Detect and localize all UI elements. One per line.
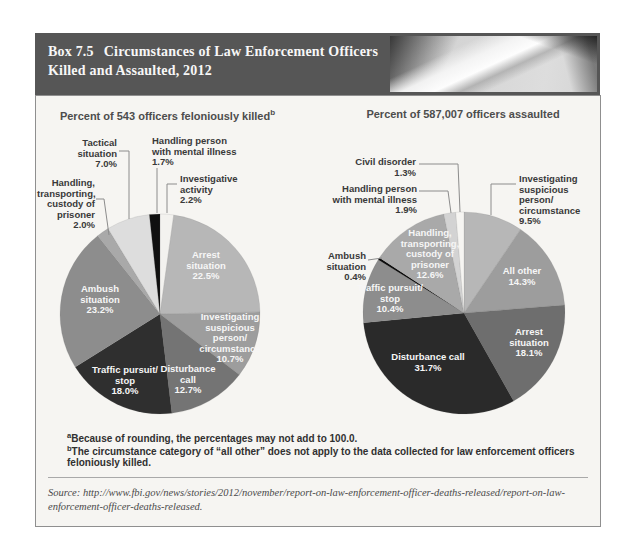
slice-label-traffic-killed: Traffic pursuit/ stop 18.0% [80, 365, 170, 397]
killed-chart-title-superscript: b [270, 108, 275, 117]
slice-label-arrest-killed: Arrest situation 22.5% [161, 250, 251, 282]
page: Box 7.5Circumstances of Law Enforcement … [0, 0, 627, 542]
slice-label-investigating-suspicious-killed: Investigating suspicious person/ circums… [185, 312, 275, 365]
source-divider-line [48, 477, 588, 478]
callout-tactical-situation: Tactical situation 7.0% [47, 138, 117, 170]
header-photo-image [390, 36, 597, 92]
slice-label-disturbance-assaulted: Disturbance call 31.7% [383, 352, 473, 373]
footnote-b: bThe circumstance category of “all other… [67, 444, 587, 468]
box-header-title: Box 7.5Circumstances of Law Enforcement … [48, 42, 418, 80]
callout-handling-prisoner-killed: Handling, transporting, custody of priso… [37, 178, 95, 231]
callout-mental-illness-killed: Handling person with mental illness 1.7% [152, 136, 262, 168]
slice-label-all-other-assaulted: All other 14.3% [477, 266, 567, 287]
assaulted-chart-title: Percent of 587,007 officers assaulted [348, 108, 578, 120]
slice-label-handling-prisoner-assaulted: Handling, transporting, custody of priso… [385, 228, 475, 281]
callout-civil-disorder: Civil disorder 1.3% [336, 157, 416, 178]
box-header: Box 7.5Circumstances of Law Enforcement … [35, 33, 600, 95]
box-number-label: Box 7.5 [48, 44, 94, 59]
footnote-a: aBecause of rounding, the percentages ma… [67, 431, 587, 444]
callout-investigating-suspicious-assaulted: Investigating suspicious person/ circums… [519, 174, 609, 227]
footnote-b-text: The circumstance category of “all other”… [67, 446, 574, 468]
slice-label-ambush-killed: Ambush situation 23.2% [55, 284, 145, 316]
callout-mental-illness-assaulted: Handling person with mental illness 1.9% [307, 184, 417, 216]
footnote-a-text: Because of rounding, the percentages may… [71, 433, 357, 444]
slice-label-traffic-assaulted: Traffic pursuit/ stop 10.4% [345, 283, 435, 315]
box-title-text: Circumstances of Law Enforcement Officer… [48, 44, 378, 78]
assaulted-chart-title-text: Percent of 587,007 officers assaulted [366, 108, 559, 120]
killed-chart-title: Percent of 543 officers feloniously kill… [45, 108, 290, 122]
callout-ambush-assaulted: Ambush situation 0.4% [306, 251, 366, 283]
slice-label-arrest-assaulted: Arrest situation 18.1% [484, 327, 574, 359]
callout-investigative-activity: Investigative activity 2.2% [180, 174, 270, 206]
killed-chart-title-text: Percent of 543 officers feloniously kill… [60, 110, 270, 122]
source-text: Source: http://www.fbi.gov/news/stories/… [48, 486, 596, 514]
